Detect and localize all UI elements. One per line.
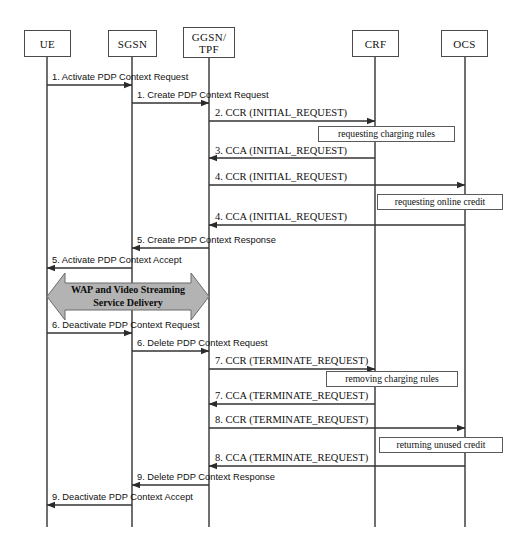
service-delivery-block xyxy=(47,273,209,320)
note-removing-charging-rules: removing charging rules xyxy=(326,371,458,387)
message-label: 4. CCA (INITIAL_REQUEST) xyxy=(215,211,347,222)
message-label: 1. Create PDP Context Request xyxy=(137,90,269,101)
message-label: 1. Activate PDP Context Request xyxy=(52,72,188,83)
actor-label-ocs: OCS xyxy=(453,38,475,50)
message-label: 5. Create PDP Context Response xyxy=(137,235,276,246)
note-returning-unused-credit: returning unused credit xyxy=(379,437,503,453)
message-label: 7. CCA (TERMINATE_REQUEST) xyxy=(215,390,368,401)
message-label: 7. CCR (TERMINATE_REQUEST) xyxy=(215,355,368,366)
actor-label-ue: UE xyxy=(40,38,55,50)
actor-box-ocs[interactable]: OCS xyxy=(441,30,488,57)
actor-label-sgsn: SGSN xyxy=(118,38,147,50)
message-label: 9. Deactivate PDP Context Accept xyxy=(52,492,193,503)
message-label: 2. CCR (INITIAL_REQUEST) xyxy=(215,107,347,118)
actor-box-sgsn[interactable]: SGSN xyxy=(108,30,157,57)
message-label: 3. CCA (INITIAL_REQUEST) xyxy=(215,145,347,156)
actor-box-ue[interactable]: UE xyxy=(24,30,71,57)
actor-box-ggsn[interactable]: GGSN/TPF xyxy=(183,27,235,58)
service-delivery-block-arrow xyxy=(47,273,209,320)
sequence-diagram: UESGSNGGSN/TPFCRFOCS 1. Activate PDP Con… xyxy=(0,0,512,556)
message-label: 8. CCA (TERMINATE_REQUEST) xyxy=(215,452,368,463)
message-label: 5. Activate PDP Context Accept xyxy=(52,255,182,266)
actor-label-crf: CRF xyxy=(365,38,387,50)
message-label: 6. Delete PDP Context Request xyxy=(137,338,268,349)
message-label: 6. Deactivate PDP Context Request xyxy=(52,320,200,331)
actor-box-crf[interactable]: CRF xyxy=(352,30,399,57)
note-requesting-charging-rules: requesting charging rules xyxy=(318,126,455,142)
message-label: 8. CCR (TERMINATE_REQUEST) xyxy=(215,414,368,425)
message-label: 4. CCR (INITIAL_REQUEST) xyxy=(215,171,347,182)
actor-label-ggsn: GGSN/TPF xyxy=(192,31,227,55)
message-label: 9. Delete PDP Context Response xyxy=(137,472,275,483)
note-requesting-online-credit: requesting online credit xyxy=(377,194,503,210)
